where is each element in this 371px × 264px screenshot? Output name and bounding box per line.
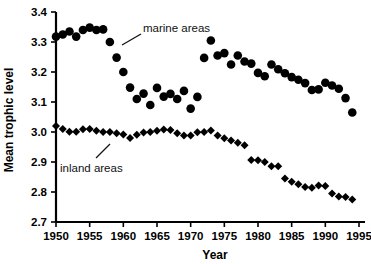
data-point-marine — [112, 53, 121, 62]
data-point-inland — [59, 125, 67, 133]
data-point-inland — [153, 127, 161, 135]
chart-container: 3.43.33.23.13.02.92.82.7 195019551960196… — [0, 0, 371, 264]
data-point-inland — [200, 128, 208, 136]
data-point-inland — [301, 183, 309, 191]
data-point-inland — [173, 129, 181, 137]
data-point-inland — [294, 180, 302, 188]
data-point-marine — [186, 104, 195, 113]
x-axis-title: Year — [202, 248, 228, 262]
data-point-marine — [153, 84, 162, 93]
y-axis-ticks: 3.43.33.23.13.02.92.82.7 — [31, 6, 56, 228]
data-point-inland — [328, 190, 336, 198]
data-point-marine — [301, 79, 310, 88]
data-point-marine — [106, 38, 115, 47]
x-tick-label: 1970 — [178, 230, 204, 242]
mean-trophic-level-scatter-chart: 3.43.33.23.13.02.92.82.7 195019551960196… — [0, 0, 371, 264]
data-point-inland — [193, 128, 201, 136]
x-tick-label: 1960 — [111, 230, 137, 242]
data-point-inland — [207, 127, 215, 135]
data-point-inland — [315, 181, 323, 189]
y-tick-label: 3.3 — [31, 36, 47, 48]
data-point-inland — [133, 131, 141, 139]
data-point-inland — [274, 162, 282, 170]
data-point-marine — [234, 51, 243, 60]
y-tick-label: 3.2 — [31, 66, 47, 78]
data-point-inland — [72, 128, 80, 136]
inland-areas-annotation: inland areas — [60, 162, 123, 174]
x-tick-label: 1995 — [346, 230, 371, 242]
x-tick-label: 1980 — [245, 230, 271, 242]
data-point-inland — [106, 128, 114, 136]
data-point-inland — [140, 129, 148, 137]
x-tick-label: 1965 — [144, 230, 170, 242]
x-tick-label: 1990 — [313, 230, 339, 242]
data-point-inland — [288, 178, 296, 186]
data-point-marine — [146, 101, 155, 110]
data-point-inland — [187, 132, 195, 140]
data-point-inland — [92, 127, 100, 135]
data-point-inland — [160, 126, 168, 134]
data-point-marine — [260, 72, 269, 81]
data-point-marine — [247, 59, 256, 68]
marine-annotation-leader-line — [122, 34, 141, 45]
data-point-inland — [348, 196, 356, 204]
data-point-inland — [254, 156, 262, 164]
data-point-marine — [173, 95, 182, 104]
x-tick-label: 1985 — [279, 230, 305, 242]
x-tick-label: 1975 — [212, 230, 238, 242]
data-point-marine — [133, 95, 142, 104]
y-tick-label: 3.1 — [31, 96, 48, 108]
x-tick-label: 1955 — [77, 230, 103, 242]
data-point-inland — [214, 132, 222, 140]
y-axis-title: Mean trophic level — [2, 68, 16, 173]
data-point-marine — [72, 32, 81, 41]
data-point-marine — [126, 83, 135, 92]
marine-areas-annotation: marine areas — [143, 22, 210, 34]
data-point-marine — [227, 60, 236, 69]
data-point-inland — [234, 139, 242, 147]
y-tick-label: 2.9 — [31, 156, 47, 168]
data-point-inland — [146, 128, 154, 136]
data-point-inland — [342, 193, 350, 201]
data-point-marine — [193, 93, 202, 102]
data-point-inland — [281, 175, 289, 183]
data-point-marine — [341, 94, 350, 103]
data-point-inland — [308, 184, 316, 192]
data-point-inland — [86, 125, 94, 133]
data-point-inland — [79, 125, 87, 133]
data-point-marine — [314, 85, 323, 94]
data-point-inland — [227, 136, 235, 144]
data-point-inland — [113, 129, 121, 137]
data-point-marine — [139, 89, 148, 98]
data-point-marine — [220, 49, 229, 58]
inland-annotation-leader-line — [96, 144, 110, 158]
data-point-marine — [119, 68, 128, 77]
y-tick-label: 2.8 — [31, 186, 48, 198]
data-point-marine — [180, 87, 189, 96]
data-point-inland — [321, 182, 329, 190]
data-point-marine — [99, 25, 108, 34]
data-point-marine — [335, 85, 344, 94]
data-point-inland — [166, 126, 174, 134]
data-point-inland — [335, 193, 343, 201]
y-tick-label: 3.4 — [31, 6, 48, 18]
y-tick-label: 3.0 — [31, 126, 47, 138]
data-point-inland — [119, 130, 127, 138]
data-point-inland — [126, 134, 134, 142]
data-point-marine — [200, 54, 209, 63]
x-tick-label: 1950 — [43, 230, 69, 242]
data-point-inland — [247, 156, 255, 164]
data-point-inland — [241, 141, 249, 149]
y-tick-label: 2.7 — [31, 216, 47, 228]
data-point-marine — [207, 36, 216, 45]
data-point-inland — [52, 122, 60, 130]
series-marine-areas — [52, 23, 357, 117]
data-point-marine — [348, 108, 357, 117]
x-axis-ticks: 1950195519601965197019751980198519901995 — [43, 222, 371, 242]
data-point-inland — [220, 134, 228, 142]
data-point-inland — [261, 158, 269, 166]
